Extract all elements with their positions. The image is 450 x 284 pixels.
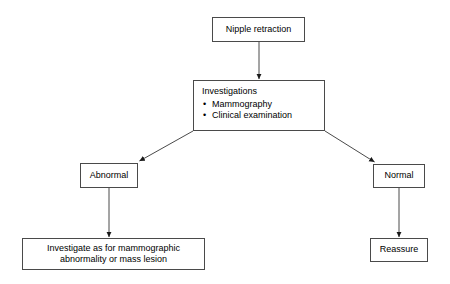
node-nipple-retraction: Nipple retraction — [212, 17, 305, 42]
node-abnormal-label: Abnormal — [90, 170, 129, 182]
node-investigate-further-line2: abnormality or mass lesion — [47, 254, 180, 266]
node-investigate-further: Investigate as for mammographic abnormal… — [22, 238, 205, 270]
node-reassure: Reassure — [370, 238, 428, 262]
node-nipple-retraction-label: Nipple retraction — [226, 24, 292, 36]
node-reassure-label: Reassure — [380, 244, 419, 256]
node-normal-label: Normal — [384, 170, 413, 182]
edge-investigations-to-abnormal — [140, 131, 194, 161]
edge-investigations-to-normal — [325, 131, 375, 162]
list-item: Mammography — [202, 99, 320, 111]
node-investigations-title: Investigations — [202, 86, 320, 98]
list-item: Clinical examination — [202, 110, 320, 122]
node-investigations-list: Mammography Clinical examination — [202, 99, 320, 122]
flowchart-canvas: Nipple retraction Investigations Mammogr… — [0, 0, 450, 284]
node-abnormal: Abnormal — [80, 163, 138, 188]
node-investigations: Investigations Mammography Clinical exam… — [193, 80, 325, 131]
node-investigate-further-text: Investigate as for mammographic abnormal… — [47, 243, 180, 266]
node-investigate-further-line1: Investigate as for mammographic — [47, 243, 180, 255]
node-normal: Normal — [373, 164, 425, 188]
